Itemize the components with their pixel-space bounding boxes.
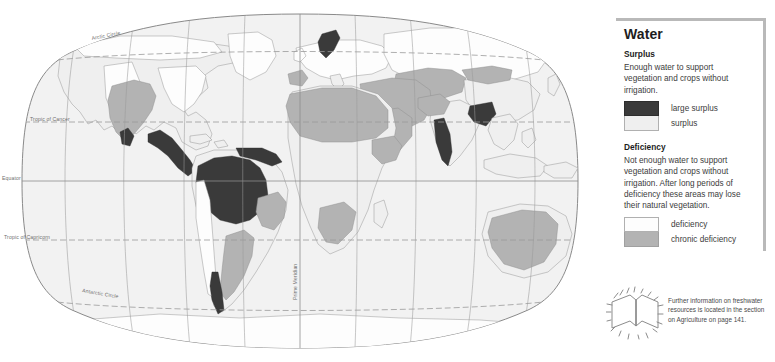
world-map[interactable]: Tropic of Cancer Equator Tropic of Capri… [0,0,600,362]
label-tropic-of-capricorn: Tropic of Capricorn [4,234,50,240]
legend-title: Water [624,26,764,42]
swatch-large-surplus [624,101,659,116]
swatch-surplus [624,116,659,131]
legend-surplus-description: Enough water to support vegetation and c… [624,62,752,96]
landmass-new-zealand [578,262,594,288]
swatch-deficiency [624,217,659,232]
legend-item-large-surplus[interactable]: large surplus [624,101,764,116]
footnote-block: Further information on freshwater resour… [606,286,772,346]
legend-surplus-heading: Surplus [624,49,764,59]
legend-item-deficiency[interactable]: deficiency [624,217,764,232]
label-prime-meridian: Prime Meridian [292,264,298,300]
legend-deficiency-description: Not enough water to support vegetation a… [624,155,752,212]
legend-label-deficiency: deficiency [671,220,707,229]
legend-label-surplus: surplus [671,119,697,128]
label-equator: Equator [2,175,21,181]
legend-deficiency-swatches: deficiency chronic deficiency [624,217,764,247]
legend-item-chronic-deficiency[interactable]: chronic deficiency [624,232,764,247]
legend-surplus-swatches: large surplus surplus [624,101,764,131]
region-sahara-chronic [286,88,388,142]
swatch-chronic-deficiency [624,232,659,247]
legend-item-surplus[interactable]: surplus [624,116,764,131]
legend-panel: Water Surplus Enough water to support ve… [616,18,764,247]
legend-label-chronic-deficiency: chronic deficiency [671,235,736,244]
water-map-page: Tropic of Cancer Equator Tropic of Capri… [0,0,775,362]
open-book-icon [606,286,664,340]
legend-label-large-surplus: large surplus [671,104,718,113]
label-tropic-of-cancer: Tropic of Cancer [30,116,70,122]
footnote-text: Further information on freshwater resour… [668,296,772,324]
legend-deficiency-heading: Deficiency [624,142,764,152]
